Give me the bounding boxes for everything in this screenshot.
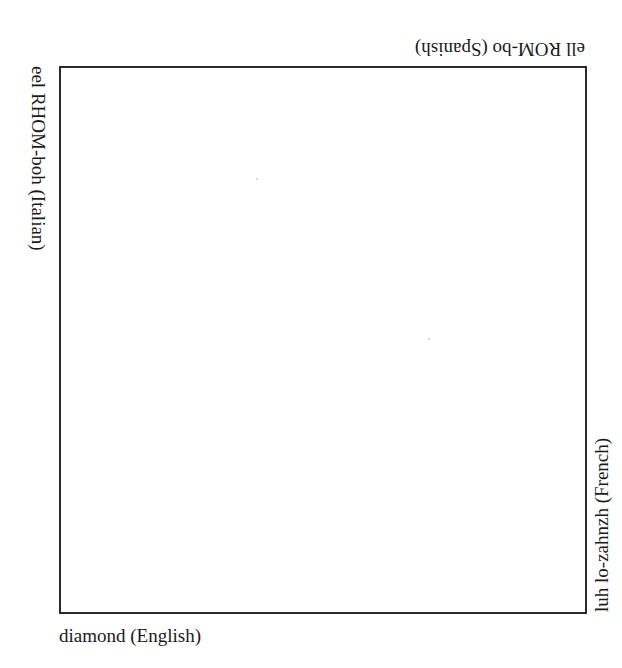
diagram-frame — [59, 66, 587, 614]
label-italian: eel RHOM-boh (Italian) — [29, 66, 48, 251]
scan-speck — [256, 178, 258, 180]
label-spanish: ell ROM-bo (Spanish) — [415, 40, 585, 59]
scan-speck — [428, 338, 430, 340]
label-english: diamond (English) — [59, 626, 201, 645]
label-french: luh lo-zahnzh (French) — [592, 438, 611, 612]
